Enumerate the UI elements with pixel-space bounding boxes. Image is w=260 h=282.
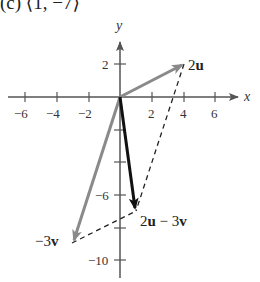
x-tick-label: −4 <box>46 106 60 121</box>
label-2u-minus-3v: 2u − 3v <box>140 213 187 229</box>
x-axis-label: x <box>243 89 251 104</box>
y-tick-label: −6 <box>95 188 109 203</box>
vector-diagram: x y −6 −4 −2 2 4 6 2 −6 −10 2u −3v 2u − … <box>0 0 260 282</box>
y-tick-label: 2 <box>102 57 109 72</box>
y-axis-label: y <box>114 18 123 33</box>
x-tick-label: 6 <box>211 106 218 121</box>
vector-2u <box>120 65 182 97</box>
x-tick-label: 2 <box>148 106 155 121</box>
x-tick-label: −2 <box>78 106 92 121</box>
x-tick-label: 4 <box>180 106 187 121</box>
vector-2u-minus-3v <box>120 97 135 208</box>
x-tick-label: −6 <box>14 106 28 121</box>
label-2u: 2u <box>188 57 204 73</box>
label-neg-3v: −3v <box>35 233 59 249</box>
y-tick-label: −10 <box>88 253 108 268</box>
